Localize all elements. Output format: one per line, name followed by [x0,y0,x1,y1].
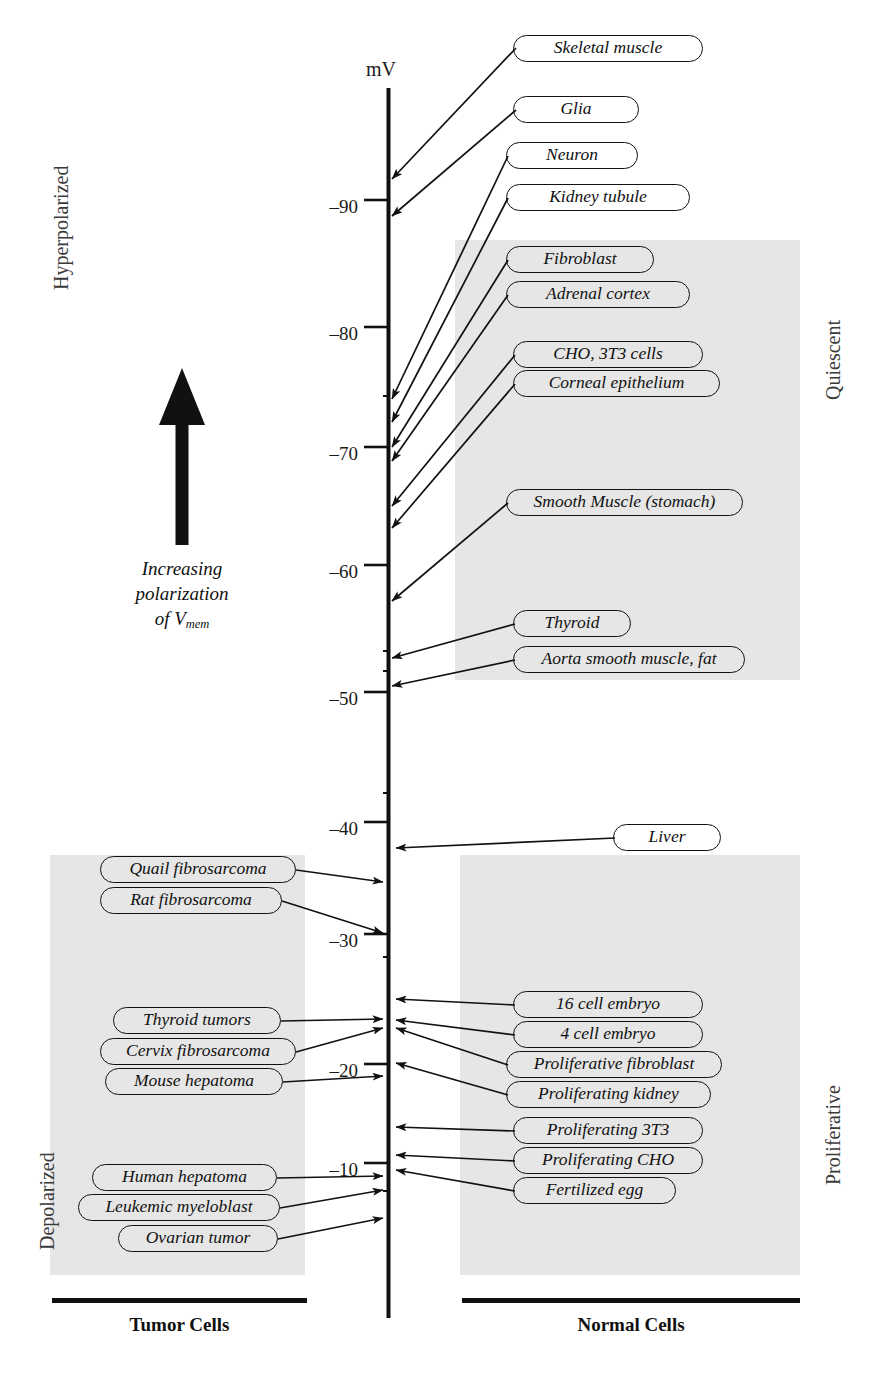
leader-line [396,1028,508,1065]
leader-line [392,624,515,658]
increasing-polarization-annotation: Increasing polarization of Vmem [92,556,272,637]
leader-line [396,1155,515,1161]
cell-label-capsule: Leukemic myeloblast [78,1194,280,1221]
tumor-group-rule [52,1298,307,1303]
axis-tick-label: –30 [296,930,358,952]
axis-tick-label: –60 [296,561,358,583]
leader-line [296,1028,383,1052]
cell-label-capsule: CHO, 3T3 cells [513,341,703,368]
leader-line [392,660,515,686]
normal-group-caption: Normal Cells [462,1314,800,1336]
axis-tick-label: –50 [296,688,358,710]
cell-label-capsule: Kidney tubule [506,184,690,211]
cell-label-capsule: Mouse hepatoma [105,1068,283,1095]
leader-line [396,1020,515,1035]
axis-tick-label: –80 [296,323,358,345]
axis-tick-label: –20 [296,1060,358,1082]
normal-group-rule [462,1298,800,1303]
cell-label-capsule: Proliferating kidney [506,1081,711,1108]
cell-label-capsule: Fibroblast [506,246,654,273]
leader-line [392,503,508,601]
leader-line [392,110,516,216]
cell-label-capsule: Proliferating CHO [513,1147,703,1174]
cell-label-capsule: Ovarian tumor [118,1225,278,1252]
leader-line [392,355,515,506]
leader-line [396,1063,508,1095]
annotation-vmem-subscript: mem [186,617,210,631]
cell-label-capsule: Smooth Muscle (stomach) [506,489,743,516]
leader-line [296,870,383,882]
side-label-quiescent: Quiescent [822,320,845,400]
annotation-line-3: of Vmem [92,606,272,637]
leader-line [392,48,516,179]
cell-label-capsule: Proliferating 3T3 [513,1117,703,1144]
cell-label-capsule: Fertilized egg [513,1177,676,1204]
cell-label-capsule: Liver [613,824,721,851]
axis-unit-label: mV [366,58,396,81]
cell-label-capsule: Thyroid [513,610,631,637]
leader-line [396,838,615,848]
leader-line [396,1170,515,1191]
axis-tick-label: –90 [296,196,358,218]
side-label-depolarized: Depolarized [36,1152,59,1250]
annotation-line-2: polarization [92,581,272,606]
cell-label-capsule: Glia [513,96,639,123]
leader-line [396,999,515,1005]
cell-label-capsule: Quail fibrosarcoma [100,856,296,883]
side-label-hyperpolarized: Hyperpolarized [50,166,73,290]
tumor-group-caption: Tumor Cells [52,1314,307,1336]
annotation-line-1: Increasing [92,556,272,581]
leader-line [392,156,508,399]
leader-line [280,1190,383,1208]
leader-line [392,260,508,447]
side-label-proliferative: Proliferative [822,1085,845,1185]
cell-label-capsule: Cervix fibrosarcoma [100,1038,296,1065]
cell-label-capsule: Thyroid tumors [113,1007,281,1034]
axis-tick-label: –70 [296,443,358,465]
leader-line [282,901,383,933]
leader-line [396,1127,515,1131]
leader-line [392,198,508,422]
cell-label-capsule: Aorta smooth muscle, fat [513,646,745,673]
leader-line [281,1019,383,1021]
cell-label-capsule: 4 cell embryo [513,1021,703,1048]
annotation-line-3-prefix: of V [155,608,186,629]
cell-label-capsule: Human hepatoma [92,1164,277,1191]
axis-tick-label: –40 [296,818,358,840]
increasing-polarization-arrow [159,368,205,545]
cell-label-capsule: Adrenal cortex [506,281,690,308]
cell-label-capsule: 16 cell embryo [513,991,703,1018]
cell-label-capsule: Proliferative fibroblast [506,1051,722,1078]
axis-tick-label: –10 [296,1159,358,1181]
cell-label-capsule: Neuron [506,142,638,169]
leader-line [392,384,515,528]
cell-label-capsule: Skeletal muscle [513,35,703,62]
cell-label-capsule: Rat fibrosarcoma [100,887,282,914]
leader-line [278,1218,383,1239]
cell-label-capsule: Corneal epithelium [513,370,720,397]
membrane-potential-diagram: mV –90–80–70–60–50–40–30–20–10 Hyperpola… [0,0,875,1382]
